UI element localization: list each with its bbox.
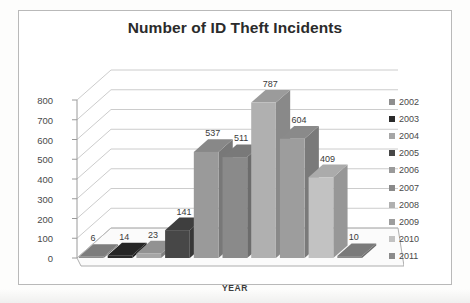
chart-frame: Number of ID Theft Incidents 01002003004… xyxy=(18,10,452,285)
legend-item-2011[interactable]: 2011 xyxy=(389,248,443,265)
legend-swatch-icon xyxy=(389,236,395,242)
bar-data-label: 787 xyxy=(263,79,278,89)
bar-group: 6142314153751178760440910 xyxy=(59,61,404,276)
legend-swatch-icon xyxy=(389,133,395,139)
bar-data-label: 604 xyxy=(291,115,306,125)
legend-item-label: 2010 xyxy=(399,234,419,244)
y-tick-label: 600 xyxy=(23,134,53,145)
y-axis-tick-labels: 0100200300400500600700800 xyxy=(21,61,53,276)
legend-swatch-icon xyxy=(389,202,395,208)
scanned-page: Number of ID Theft Incidents 01002003004… xyxy=(0,0,470,303)
legend-item-label: 2006 xyxy=(399,165,419,175)
y-tick-label: 400 xyxy=(23,174,53,185)
legend-swatch-icon xyxy=(389,219,395,225)
y-tick-label: 700 xyxy=(23,114,53,125)
y-tick-label: 500 xyxy=(23,154,53,165)
legend-item-2005[interactable]: 2005 xyxy=(389,145,443,162)
chart-title: Number of ID Theft Incidents xyxy=(19,19,451,37)
y-tick-label: 0 xyxy=(23,253,53,264)
bar-data-label: 23 xyxy=(148,230,158,240)
legend-swatch-icon xyxy=(389,253,395,259)
legend-item-2010[interactable]: 2010 xyxy=(389,231,443,248)
legend-item-label: 2004 xyxy=(399,131,419,141)
legend-swatch-icon xyxy=(389,150,395,156)
legend-swatch-icon xyxy=(389,99,395,105)
legend-item-label: 2007 xyxy=(399,183,419,193)
legend-item-label: 2008 xyxy=(399,200,419,210)
legend-item-2004[interactable]: 2004 xyxy=(389,127,443,144)
y-tick-label: 800 xyxy=(23,95,53,106)
legend-item-label: 2002 xyxy=(399,97,419,107)
legend-item-label: 2005 xyxy=(399,148,419,158)
legend: 2002200320042005200620072008200920102011 xyxy=(389,93,443,265)
legend-swatch-icon xyxy=(389,185,395,191)
legend-item-2003[interactable]: 2003 xyxy=(389,110,443,127)
y-tick-label: 300 xyxy=(23,193,53,204)
x-axis-title: YEAR xyxy=(19,283,451,293)
legend-item-2002[interactable]: 2002 xyxy=(389,93,443,110)
legend-item-label: 2003 xyxy=(399,114,419,124)
bar-data-label: 409 xyxy=(320,154,335,164)
legend-swatch-icon xyxy=(389,167,395,173)
legend-item-2009[interactable]: 2009 xyxy=(389,213,443,230)
y-tick-label: 200 xyxy=(23,213,53,224)
legend-item-2006[interactable]: 2006 xyxy=(389,162,443,179)
bar-data-label: 14 xyxy=(119,232,129,242)
y-tick-label: 100 xyxy=(23,233,53,244)
bar-data-label: 6 xyxy=(90,233,95,243)
legend-item-2008[interactable]: 2008 xyxy=(389,196,443,213)
legend-item-label: 2011 xyxy=(399,251,418,261)
plot-area: 6142314153751178760440910 xyxy=(59,61,404,276)
bar-data-label: 10 xyxy=(349,232,359,242)
bar-data-label: 141 xyxy=(177,207,192,217)
legend-item-2007[interactable]: 2007 xyxy=(389,179,443,196)
legend-swatch-icon xyxy=(389,116,395,122)
bar-data-label: 537 xyxy=(205,128,220,138)
bar-data-label: 511 xyxy=(234,133,248,143)
legend-item-label: 2009 xyxy=(399,217,419,227)
